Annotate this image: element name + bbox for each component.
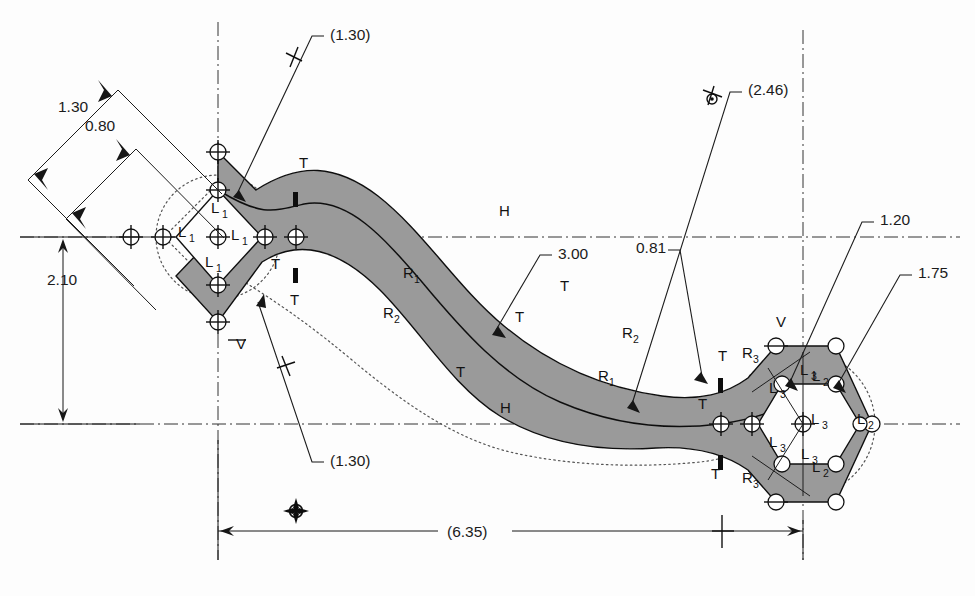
constraint-tangent-icon[interactable]: T xyxy=(515,308,524,325)
constraint-vertical-icon[interactable]: V xyxy=(236,335,246,352)
point-marker[interactable] xyxy=(828,338,844,354)
dim-label-1-30-top[interactable]: (1.30) xyxy=(330,26,371,43)
svg-text:L: L xyxy=(812,458,820,475)
constraint-tangent-icon[interactable]: T xyxy=(456,363,465,380)
constraint-tangent-icon[interactable]: T xyxy=(718,347,727,364)
svg-text:L: L xyxy=(857,410,865,427)
constraint-tangent-icon[interactable]: T xyxy=(560,277,569,294)
svg-text:1: 1 xyxy=(216,262,222,274)
tangent-bar xyxy=(718,378,723,393)
constraint-tangent-icon[interactable]: T xyxy=(271,255,280,272)
svg-text:R: R xyxy=(598,367,609,384)
constraint-tangent-icon[interactable]: T xyxy=(290,291,299,308)
svg-text:3: 3 xyxy=(780,442,786,454)
svg-text:3: 3 xyxy=(753,353,759,365)
svg-text:L: L xyxy=(811,410,819,427)
dim-label-6-35-bottom[interactable]: (6.35) xyxy=(447,523,488,540)
cad-drawing-svg: 1.30 0.80 (1.30) (1.30) 2.10 3.00 0.81 (… xyxy=(0,0,975,596)
svg-text:L: L xyxy=(231,226,239,243)
svg-text:L: L xyxy=(800,361,808,378)
svg-text:2: 2 xyxy=(868,419,874,431)
constraint-tangent-icon[interactable]: T xyxy=(698,395,707,412)
dim-label-1-30-upper-left[interactable]: 1.30 xyxy=(58,98,89,115)
svg-text:2: 2 xyxy=(633,333,639,345)
svg-text:2: 2 xyxy=(823,467,829,479)
tangent-bar xyxy=(293,268,298,283)
svg-text:L: L xyxy=(178,223,186,240)
constraint-tangent-icon[interactable]: T xyxy=(711,465,720,482)
svg-text:1: 1 xyxy=(222,208,228,220)
dim-label-1-30-bottom[interactable]: (1.30) xyxy=(330,452,371,469)
dim-label-0-81[interactable]: 0.81 xyxy=(636,239,666,256)
svg-text:1: 1 xyxy=(414,273,420,285)
svg-text:L: L xyxy=(769,379,777,396)
point-marker[interactable] xyxy=(828,456,844,472)
svg-text:3: 3 xyxy=(822,419,828,431)
cad-drawing-canvas: 1.30 0.80 (1.30) (1.30) 2.10 3.00 0.81 (… xyxy=(0,0,975,596)
svg-text:L: L xyxy=(801,445,809,462)
svg-text:R: R xyxy=(742,344,753,361)
svg-text:1: 1 xyxy=(189,232,195,244)
dim-label-1-20[interactable]: 1.20 xyxy=(880,211,911,228)
svg-text:R: R xyxy=(383,304,394,321)
dim-label-3-00[interactable]: 3.00 xyxy=(558,245,589,262)
svg-text:1: 1 xyxy=(609,376,615,388)
dim-label-0-80-upper-left[interactable]: 0.80 xyxy=(85,117,116,134)
constraint-horizontal-icon[interactable]: H xyxy=(499,202,510,219)
svg-text:L: L xyxy=(211,199,219,216)
svg-text:R: R xyxy=(622,324,633,341)
constraint-tangent-icon[interactable]: T xyxy=(299,154,308,171)
svg-text:3: 3 xyxy=(780,388,786,400)
point-marker[interactable] xyxy=(828,494,844,510)
svg-text:1: 1 xyxy=(242,235,248,247)
tangent-bar xyxy=(293,192,298,207)
svg-text:R: R xyxy=(403,264,414,281)
constraint-horizontal-icon[interactable]: H xyxy=(500,399,511,416)
svg-text:2: 2 xyxy=(823,376,829,388)
constraint-vertical-icon[interactable]: V xyxy=(776,313,786,330)
svg-text:L: L xyxy=(205,253,213,270)
svg-text:L: L xyxy=(812,367,820,384)
svg-text:L: L xyxy=(769,433,777,450)
dim-label-2-46[interactable]: (2.46) xyxy=(748,81,789,98)
svg-text:3: 3 xyxy=(753,478,759,490)
svg-text:2: 2 xyxy=(394,313,400,325)
dim-label-2-10-left[interactable]: 2.10 xyxy=(47,271,78,288)
dim-label-1-75[interactable]: 1.75 xyxy=(918,264,948,281)
svg-text:R: R xyxy=(742,469,753,486)
